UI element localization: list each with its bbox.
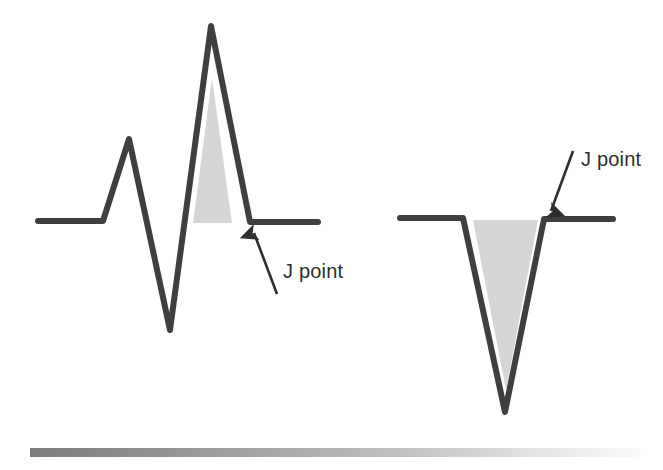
left-ecg-trace <box>38 26 318 330</box>
ecg-j-point-figure: J point J point <box>0 0 663 470</box>
left-j-point-label: J point <box>283 260 344 282</box>
right-waveform-group: J point <box>400 148 642 412</box>
right-j-point-arrow <box>551 151 573 211</box>
right-j-point-label: J point <box>581 148 642 170</box>
gradient-bar <box>30 448 641 457</box>
left-j-point-arrow <box>254 233 277 294</box>
left-waveform-group: J point <box>38 26 344 330</box>
ecg-diagram-svg: J point J point <box>0 0 663 470</box>
